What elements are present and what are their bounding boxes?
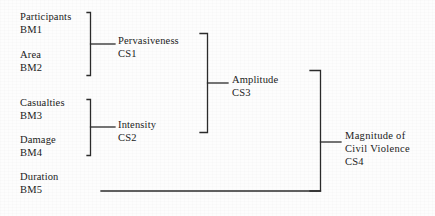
outcome-line-2: Civil Violence bbox=[345, 143, 410, 155]
indicator-damage-name: Damage bbox=[20, 134, 56, 146]
construct-pervasiveness-name: Pervasiveness bbox=[118, 35, 179, 47]
indicator-duration-code: BM5 bbox=[20, 184, 42, 196]
construct-amplitude-code: CS3 bbox=[232, 87, 251, 99]
indicator-duration-name: Duration bbox=[20, 171, 59, 183]
outcome-code: CS4 bbox=[345, 156, 364, 168]
bracket-amplitude bbox=[200, 34, 208, 133]
indicator-participants-code: BM1 bbox=[20, 24, 42, 36]
construct-amplitude-name: Amplitude bbox=[232, 74, 278, 86]
indicator-casualties-code: BM3 bbox=[20, 110, 42, 122]
indicator-casualties-name: Casualties bbox=[20, 97, 65, 109]
outcome-line-1: Magnitude of bbox=[345, 130, 405, 142]
indicator-area-name: Area bbox=[20, 49, 41, 61]
bracket-connectors bbox=[0, 0, 435, 216]
indicator-area-code: BM2 bbox=[20, 62, 42, 74]
construct-pervasiveness-code: CS1 bbox=[118, 48, 137, 60]
indicator-damage-code: BM4 bbox=[20, 147, 42, 159]
concept-hierarchy-diagram: Participants BM1 Area BM2 Casualties BM3… bbox=[0, 0, 435, 216]
construct-intensity-name: Intensity bbox=[118, 119, 156, 131]
construct-intensity-code: CS2 bbox=[118, 132, 137, 144]
indicator-participants-name: Participants bbox=[20, 11, 71, 23]
bracket-magnitude bbox=[310, 71, 321, 192]
